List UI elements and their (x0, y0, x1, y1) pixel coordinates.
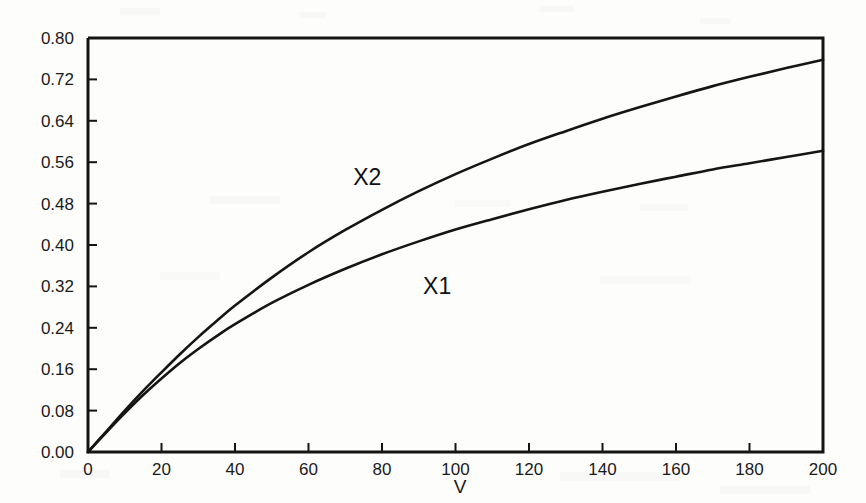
x-tick-label: 80 (373, 460, 392, 479)
x-tick-label: 0 (83, 460, 92, 479)
x-tick-label: 60 (299, 460, 318, 479)
y-tick-label: 0.32 (41, 277, 74, 296)
y-tick-label: 0.72 (41, 70, 74, 89)
y-tick-label: 0.08 (41, 402, 74, 421)
data-series-group (88, 60, 823, 452)
y-tick-label: 0.16 (41, 360, 74, 379)
y-tick-label: 0.40 (41, 236, 74, 255)
x-tick-label: 180 (735, 460, 763, 479)
x-tick-label: 20 (152, 460, 171, 479)
curve-x2 (88, 60, 823, 452)
x-tick-label: 120 (515, 460, 543, 479)
y-tick-label: 0.80 (41, 29, 74, 48)
series-label-x2: X2 (353, 164, 381, 190)
curve-x1 (88, 151, 823, 452)
y-tick-label: 0.64 (41, 112, 74, 131)
y-tick-label: 0.24 (41, 319, 74, 338)
y-tick-label: 0.48 (41, 195, 74, 214)
x-tick-label: 160 (662, 460, 690, 479)
x-tick-label: 140 (588, 460, 616, 479)
x-tick-label: 40 (226, 460, 245, 479)
y-axis-tick-labels: 0.000.080.160.240.320.400.480.560.640.72… (41, 29, 74, 462)
chart-figure: 0.000.080.160.240.320.400.480.560.640.72… (0, 0, 866, 503)
x-axis-title: V (454, 476, 467, 497)
y-tick-label: 0.00 (41, 443, 74, 462)
series-label-x1: X1 (423, 273, 451, 299)
y-tick-label: 0.56 (41, 153, 74, 172)
x-tick-label: 200 (809, 460, 837, 479)
series-annotations: X1X2 (353, 164, 451, 299)
plot-frame (88, 38, 823, 452)
plot-area: 0.000.080.160.240.320.400.480.560.640.72… (0, 0, 866, 503)
